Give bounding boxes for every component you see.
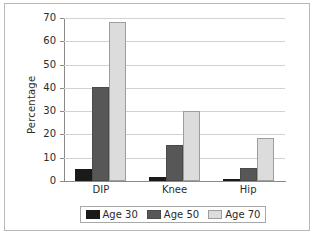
bar: [75, 169, 92, 181]
plot-area: 010203040506070: [64, 18, 285, 181]
gridline: [64, 65, 285, 66]
y-axis-tick-label: 0: [28, 175, 56, 186]
legend-swatch: [86, 210, 100, 219]
gridline: [64, 41, 285, 42]
y-axis-tick-label: 20: [28, 128, 56, 139]
x-axis-tick-label: Hip: [208, 184, 288, 196]
legend-item[interactable]: Age 50: [147, 209, 199, 220]
bar: [183, 111, 200, 181]
y-axis-tick-mark: [60, 181, 64, 182]
gridline: [64, 18, 285, 19]
bar: [92, 87, 109, 181]
legend-swatch: [208, 210, 222, 219]
bar: [109, 22, 126, 182]
x-axis-line: [64, 181, 286, 182]
y-axis-tick-label: 10: [28, 152, 56, 163]
legend-label: Age 30: [103, 209, 138, 220]
y-axis-tick-label: 30: [28, 105, 56, 116]
bar: [223, 179, 240, 181]
y-axis-tick-label: 60: [28, 35, 56, 46]
y-axis-tick-label: 70: [28, 12, 56, 23]
y-axis-tick-mark: [60, 134, 64, 135]
legend-label: Age 70: [225, 209, 260, 220]
y-axis-tick-mark: [60, 41, 64, 42]
y-axis-tick-mark: [60, 88, 64, 89]
x-axis-tick-label: Knee: [135, 184, 215, 196]
y-axis-tick-mark: [60, 158, 64, 159]
bar: [257, 138, 274, 181]
legend-item[interactable]: Age 70: [208, 209, 260, 220]
bar: [149, 177, 166, 181]
chart-legend: Age 30Age 50Age 70: [80, 206, 266, 223]
y-axis-tick-mark: [60, 18, 64, 19]
y-axis-tick-mark: [60, 65, 64, 66]
x-axis-tick-label: DIP: [61, 184, 141, 196]
bar: [240, 168, 257, 181]
legend-swatch: [147, 210, 161, 219]
bar: [166, 145, 183, 181]
chart-figure: Percentage 010203040506070 DIPKneeHip Ag…: [0, 0, 315, 235]
legend-label: Age 50: [164, 209, 199, 220]
y-axis-tick-mark: [60, 111, 64, 112]
y-axis-tick-label: 50: [28, 59, 56, 70]
legend-item[interactable]: Age 30: [86, 209, 138, 220]
y-axis-tick-label: 40: [28, 82, 56, 93]
